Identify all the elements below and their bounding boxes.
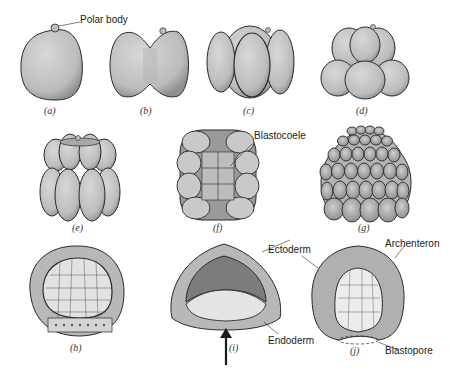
caption-a: (a) [44,105,56,116]
caption-j: (j) [350,345,359,356]
caption-g: (g) [358,222,370,233]
label-blastocoele: Blastocoele [254,130,306,141]
label-ectoderm: Ectoderm [268,244,311,255]
panel-c-four-cell [207,26,294,98]
panel-j-archenteron [302,245,405,350]
caption-e: (e) [72,222,83,233]
caption-f: (f) [213,222,222,233]
panel-a-zygote [21,22,82,100]
panel-g-blastula [320,126,411,222]
panel-h-blastula-section [30,246,124,336]
caption-d: (d) [356,105,368,116]
panel-e-sixteen-cell [40,134,120,221]
label-archenteron: Archenteron [385,238,439,249]
caption-b: (b) [140,105,152,116]
panel-d-eight-cell [321,25,409,100]
panel-b-two-cell [110,28,189,97]
panel-f-section [177,130,259,220]
label-blastopore: Blastopore [385,345,433,356]
caption-h: (h) [70,342,82,353]
label-polar-body: Polar body [80,14,128,25]
polar-body [51,24,59,32]
label-endoderm: Endoderm [268,335,314,346]
caption-i: (i) [229,342,238,353]
caption-c: (c) [243,105,254,116]
